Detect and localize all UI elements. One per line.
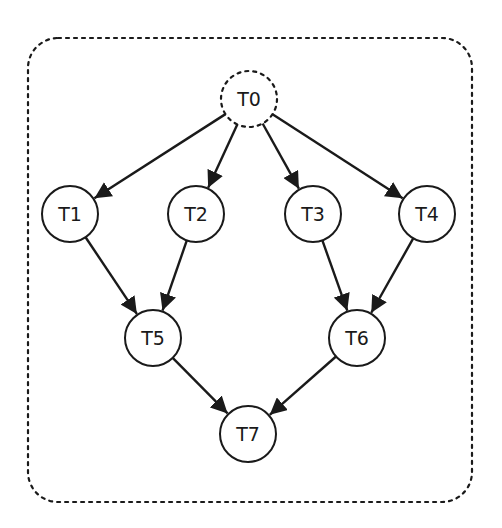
edge-t0-to-t2	[208, 124, 237, 187]
node-label: T2	[183, 203, 208, 225]
edge-t1-to-t5	[86, 237, 137, 314]
edge-t0-to-t3	[263, 123, 299, 188]
node-label: T7	[235, 423, 260, 445]
edge-t3-to-t6	[322, 240, 347, 310]
edge-t2-to-t5	[163, 240, 187, 310]
node-t0: T0	[221, 71, 277, 127]
node-label: T4	[414, 203, 439, 225]
node-label: T6	[344, 327, 369, 349]
node-label: T3	[300, 203, 325, 225]
edge-t5-to-t7	[173, 358, 228, 413]
edge-t0-to-t1	[94, 114, 225, 198]
node-t3: T3	[285, 186, 341, 242]
node-t5: T5	[125, 310, 181, 366]
node-label: T5	[140, 327, 165, 349]
edges-layer	[86, 114, 414, 415]
node-label: T0	[236, 88, 261, 110]
node-t2: T2	[168, 186, 224, 242]
edge-t4-to-t6	[371, 238, 413, 312]
node-t6: T6	[329, 310, 385, 366]
edge-t0-to-t4	[273, 114, 403, 198]
edge-t6-to-t7	[270, 357, 336, 415]
node-t1: T1	[42, 186, 98, 242]
node-t7: T7	[220, 406, 276, 462]
node-t4: T4	[399, 186, 455, 242]
node-label: T1	[57, 203, 82, 225]
task-graph-diagram: T0T1T2T3T4T5T6T7	[0, 0, 502, 528]
